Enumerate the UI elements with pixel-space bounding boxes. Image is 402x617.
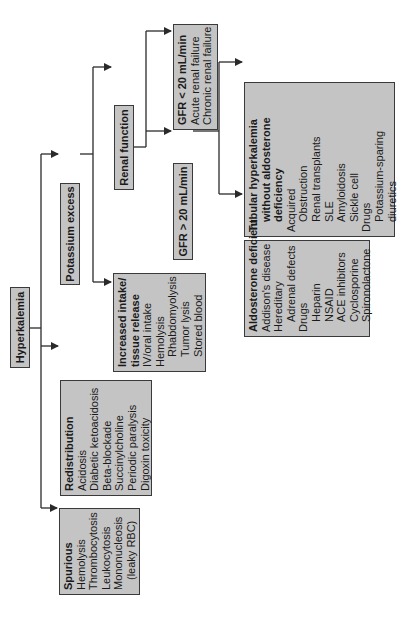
redistribution-title: Redistribution [63,385,76,491]
spurious-item: Leukocytosis [100,513,113,590]
increased-intake-item: Stored blood [192,278,205,367]
potassium-excess-node: Potassium excess [60,183,80,285]
renal-function-node: Renal function [114,105,134,190]
spurious-node: Spurious Hemolysis Thrombocytosis Leukoc… [59,508,140,595]
tubular-title: Tubular hyperkalemia [247,87,260,232]
spurious-item: Thrombocytosis [87,513,100,590]
renal-function-label: Renal function [118,109,131,185]
increased-intake-item: IV/oral intake [141,278,154,367]
redistribution-node: Redistribution Acidosis Diabetic ketoaci… [60,380,152,496]
aldosterone-item: NSAID [323,245,336,332]
hyperkalemia-label: Hyperkalemia [14,292,27,364]
increased-intake-node: Increased intake/ tissue release IV/oral… [113,273,206,372]
increased-intake-title: Increased intake/ [116,278,129,367]
tubular-item: Amyloidosis [335,87,348,232]
tubular-item: SLE [323,87,336,232]
tubular-item: Obstruction [297,87,310,232]
gfr-low-node: GFR < 20 mL/min Acute renal failure Chro… [173,24,218,130]
gfr-low-item: Chronic renal failure [201,29,214,125]
aldosterone-item: Hereditary [272,245,285,332]
increased-intake-title: tissue release [129,278,142,367]
redistribution-item: Diabetic ketoacidosis [88,385,101,491]
aldosterone-item: Addison's disease [260,245,273,332]
redistribution-item: Periodic paralysis [126,385,139,491]
aldosterone-title: Aldosterone deficient [247,245,260,332]
tubular-item: Sickle cell [348,87,361,232]
tubular-item: diuretics [386,87,399,232]
spurious-title: Spurious [62,513,75,590]
redistribution-item: Succinylcholine [113,385,126,491]
tubular-item: Potassium-sparing [373,87,386,232]
aldosterone-item: Drugs [297,245,310,332]
gfr-low-item: Acute renal failure [189,29,202,125]
aldosterone-item: Adrenal defects [285,245,298,332]
flowchart-stage: Hyperkalemia Potassium excess Renal func… [0,0,402,617]
spurious-item: Mononucleosis [112,513,125,590]
potassium-excess-label: Potassium excess [64,186,77,281]
aldosterone-item: Cyclosporine [348,245,361,332]
redistribution-item: Beta-blockade [101,385,114,491]
tubular-title: without aldosterone [260,87,273,232]
aldosterone-item: Heparin [310,245,323,332]
increased-intake-item: Hemolysis [154,278,167,367]
redistribution-item: Acidosis [76,385,89,491]
gfr-high-node: GFR > 20 mL/min [173,163,193,260]
spurious-item: (leaky RBC) [125,513,138,590]
increased-intake-item: Rhabdomyolysis [166,278,179,367]
tubular-hyperkalemia-node: Tubular hyperkalemia without aldosterone… [244,82,395,237]
aldosterone-item: Spironolactone [360,245,373,332]
tubular-item: Acquired [285,87,298,232]
gfr-high-label: GFR > 20 mL/min [177,166,190,256]
increased-intake-item: Tumor lysis [179,278,192,367]
redistribution-item: Digoxin toxicity [139,385,152,491]
tubular-item: Drugs [360,87,373,232]
aldosterone-item: ACE inhibitors [335,245,348,332]
gfr-low-title: GFR < 20 mL/min [176,29,189,125]
aldosterone-deficient-node: Aldosterone deficient Addison's disease … [244,240,370,337]
hyperkalemia-node: Hyperkalemia [10,287,30,368]
tubular-item: Renal transplants [310,87,323,232]
tubular-title: deficiency [272,87,285,232]
spurious-item: Hemolysis [75,513,88,590]
